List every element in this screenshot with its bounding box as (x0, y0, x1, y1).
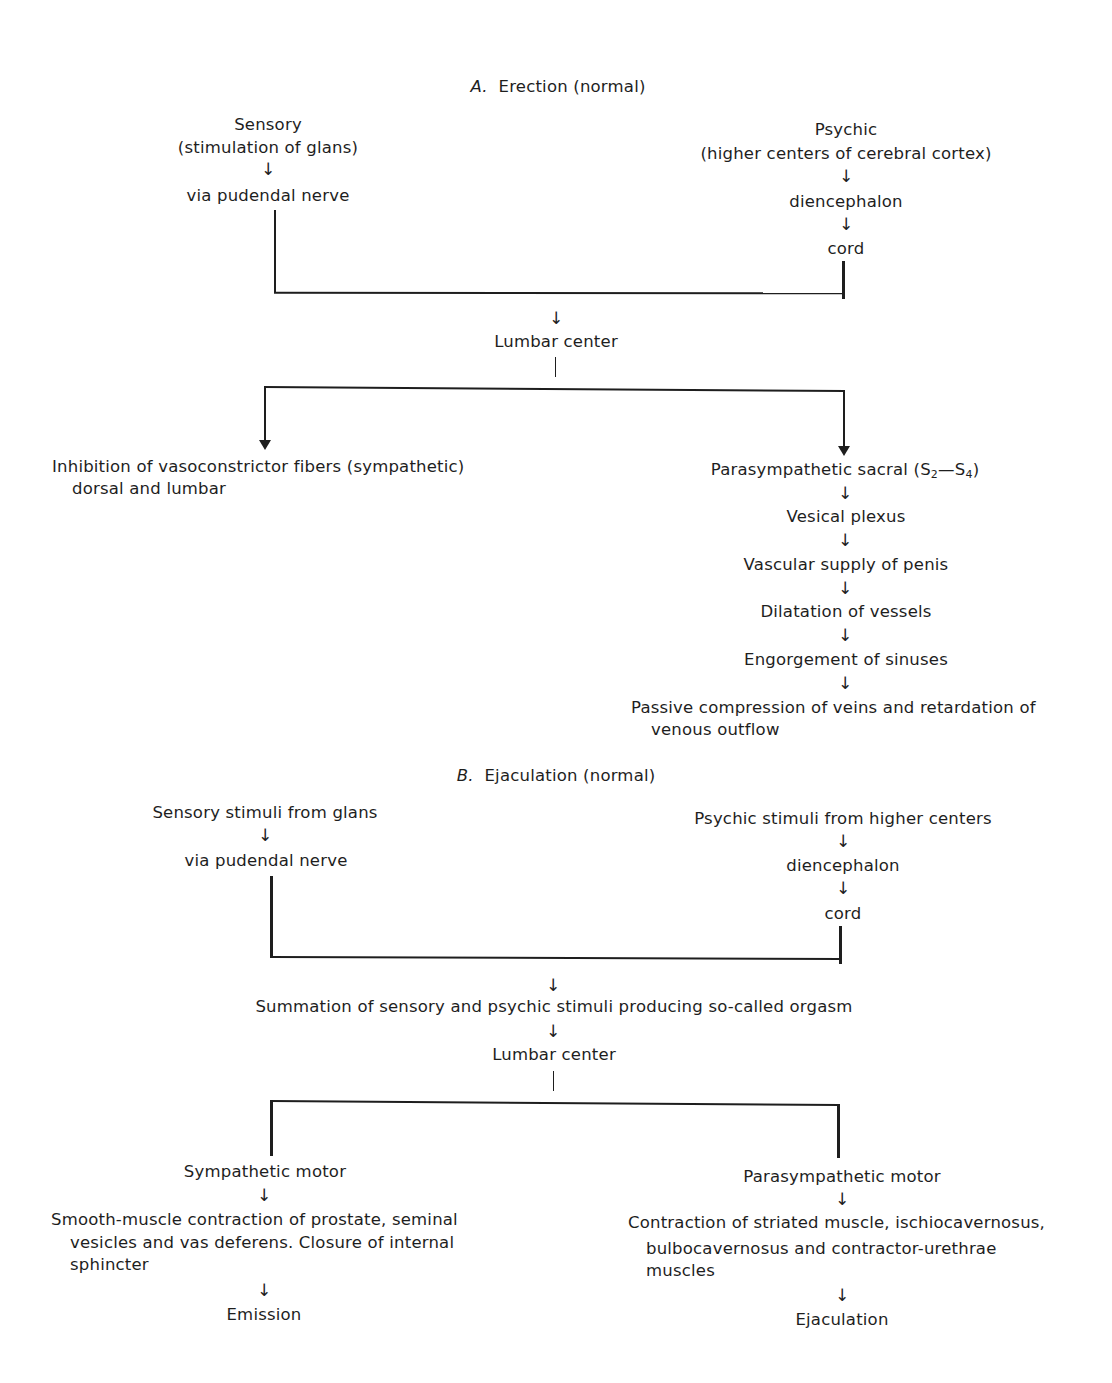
b-right-text-1: Contraction of striated muscle, ischioca… (628, 1212, 1045, 1234)
a-psychic-sublabel: (higher centers of cerebral cortex) (700, 143, 991, 165)
a-psychic-label: Psychic (815, 119, 878, 141)
b-psychic-diencephalon: diencephalon (786, 855, 899, 877)
down-arrow-icon: ↓ (838, 531, 852, 549)
b-sensory-label: Sensory stimuli from glans (152, 802, 377, 824)
a-final-text-1: Passive compression of veins and retarda… (631, 697, 1036, 719)
b-center-connector (553, 1071, 554, 1091)
section-b-title: B. Ejaculation (normal) (457, 765, 656, 787)
b-parasympathetic-motor: Parasympathetic motor (743, 1166, 940, 1188)
down-arrow-icon: ↓ (257, 1281, 271, 1299)
sacral-sub-2: 4 (965, 468, 972, 481)
down-arrow-icon: ↓ (257, 1186, 271, 1204)
b-psychic-cord: cord (825, 903, 862, 925)
a-final-text-2: venous outflow (651, 719, 780, 741)
b-summation: Summation of sensory and psychic stimuli… (255, 996, 852, 1018)
a-left-branch-text-1: Inhibition of vasoconstrictor fibers (sy… (52, 456, 464, 478)
down-arrow-icon: ↓ (258, 826, 272, 844)
section-b-letter: B. (457, 766, 474, 785)
a-step-vesical-plexus: Vesical plexus (787, 506, 906, 528)
down-arrow-icon: ↓ (839, 167, 853, 185)
b-left-branch-line (270, 1100, 273, 1156)
arrowhead-icon (838, 446, 850, 456)
b-left-text-3: sphincter (70, 1254, 149, 1276)
down-arrow-icon: ↓ (549, 309, 563, 327)
section-a-letter: A. (470, 77, 487, 96)
a-center-connector (555, 357, 556, 377)
a-step-engorgement: Engorgement of sinuses (744, 649, 948, 671)
b-right-branch-line (837, 1104, 840, 1158)
down-arrow-icon: ↓ (839, 215, 853, 233)
sacral-dash: —S (938, 460, 965, 479)
b-right-text-3: muscles (646, 1260, 715, 1282)
b-sensory-pudendal: via pudendal nerve (184, 850, 347, 872)
a-step-vascular-supply: Vascular supply of penis (744, 554, 949, 576)
section-a-title-text: Erection (normal) (499, 77, 646, 96)
down-arrow-icon: ↓ (838, 484, 852, 502)
down-arrow-icon: ↓ (835, 1190, 849, 1208)
b-left-text-1: Smooth-muscle contraction of prostate, s… (51, 1209, 458, 1231)
down-arrow-icon: ↓ (838, 626, 852, 644)
a-sensory-connector (274, 210, 276, 293)
a-left-branch-text-2: dorsal and lumbar (72, 478, 226, 500)
down-arrow-icon: ↓ (838, 579, 852, 597)
b-lumbar-center: Lumbar center (492, 1044, 616, 1066)
arrowhead-icon (259, 440, 271, 450)
a-sensory-pudendal: via pudendal nerve (186, 185, 349, 207)
b-sensory-connector (270, 876, 273, 958)
a-psychic-cord: cord (828, 238, 865, 260)
b-left-text-2: vesicles and vas deferens. Closure of in… (70, 1232, 454, 1254)
b-psychic-label: Psychic stimuli from higher centers (694, 808, 992, 830)
section-a-title: A. Erection (normal) (470, 76, 645, 98)
section-b-title-text: Ejaculation (normal) (484, 766, 655, 785)
b-split-line (271, 1100, 839, 1106)
a-psychic-diencephalon: diencephalon (789, 191, 902, 213)
sacral-prefix: Parasympathetic sacral (S (711, 460, 931, 479)
a-sensory-sublabel: (stimulation of glans) (178, 137, 358, 159)
down-arrow-icon: ↓ (261, 160, 275, 178)
a-sensory-label: Sensory (234, 114, 302, 136)
down-arrow-icon: ↓ (838, 674, 852, 692)
a-parasympathetic-sacral: Parasympathetic sacral (S2—S4) (711, 459, 980, 486)
b-merge-line (271, 956, 841, 960)
b-sympathetic-motor: Sympathetic motor (184, 1161, 346, 1183)
a-right-branch-line (843, 391, 845, 449)
b-right-text-2: bulbocavernosus and contractor-urethrae (646, 1238, 997, 1260)
a-lumbar-center: Lumbar center (494, 331, 618, 353)
a-left-branch-line (264, 386, 266, 444)
down-arrow-icon: ↓ (836, 879, 850, 897)
down-arrow-icon: ↓ (546, 1022, 560, 1040)
down-arrow-icon: ↓ (836, 832, 850, 850)
a-step-dilatation: Dilatation of vessels (760, 601, 931, 623)
b-ejaculation: Ejaculation (795, 1309, 888, 1331)
a-merge-line (274, 292, 845, 294)
a-split-line (264, 386, 845, 392)
down-arrow-icon: ↓ (546, 976, 560, 994)
b-emission: Emission (226, 1304, 301, 1326)
sacral-close: ) (973, 460, 980, 479)
down-arrow-icon: ↓ (835, 1286, 849, 1304)
